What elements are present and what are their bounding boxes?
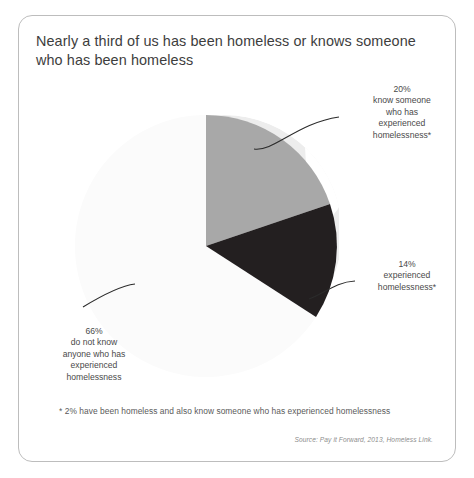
footnote: * 2% have been homeless and also know so…	[59, 406, 390, 416]
label-slice-20-line3: experienced	[347, 118, 456, 129]
chart-card: Nearly a third of us has been homeless o…	[18, 15, 456, 462]
label-slice-14: 14% experienced homelessness*	[357, 259, 456, 293]
label-slice-14-line1: experienced	[357, 270, 456, 281]
label-slice-66-line3: experienced	[29, 360, 159, 371]
pie-chart	[19, 16, 456, 462]
label-slice-66-line1: do not know	[29, 337, 159, 348]
label-slice-20-line4: homelessness*	[347, 130, 456, 141]
label-slice-20-line2: who has	[347, 107, 456, 118]
label-slice-20-percent: 20%	[347, 84, 456, 95]
label-slice-20-line1: know someone	[347, 95, 456, 106]
label-slice-66: 66% do not know anyone who has experienc…	[29, 326, 159, 383]
label-slice-66-line2: anyone who has	[29, 349, 159, 360]
chart-title: Nearly a third of us has been homeless o…	[36, 32, 436, 70]
label-slice-20: 20% know someone who has experienced hom…	[347, 84, 456, 141]
source-credit: Source: Pay it Forward, 2013, Homeless L…	[294, 436, 433, 443]
label-slice-14-percent: 14%	[357, 259, 456, 270]
label-slice-14-line2: homelessness*	[357, 282, 456, 293]
label-slice-66-percent: 66%	[29, 326, 159, 337]
label-slice-66-line4: homelessness	[29, 372, 159, 383]
